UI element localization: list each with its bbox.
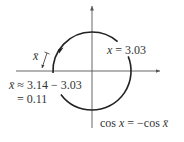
xbar-calc: ≈ 3.14 − 3.03 [14,78,81,92]
xbar-var: x̄ [33,49,38,63]
xbar-calc-line2: = 0.11 [17,93,47,106]
x-value-label: x = 3.03 [107,44,146,57]
cos-relation-label: cos x = −cos x̄ [100,117,168,130]
cos-lhs: cos [100,116,119,130]
xbar-marker-label: x̄ [33,50,38,63]
xbar-calc-line1: x̄ ≈ 3.14 − 3.03 [9,79,82,92]
cos-mid: = −cos [124,116,163,130]
x-value: = 3.03 [112,43,146,57]
xbar-indicator-line [42,53,47,68]
cos-rhs-var: x̄ [163,116,168,130]
